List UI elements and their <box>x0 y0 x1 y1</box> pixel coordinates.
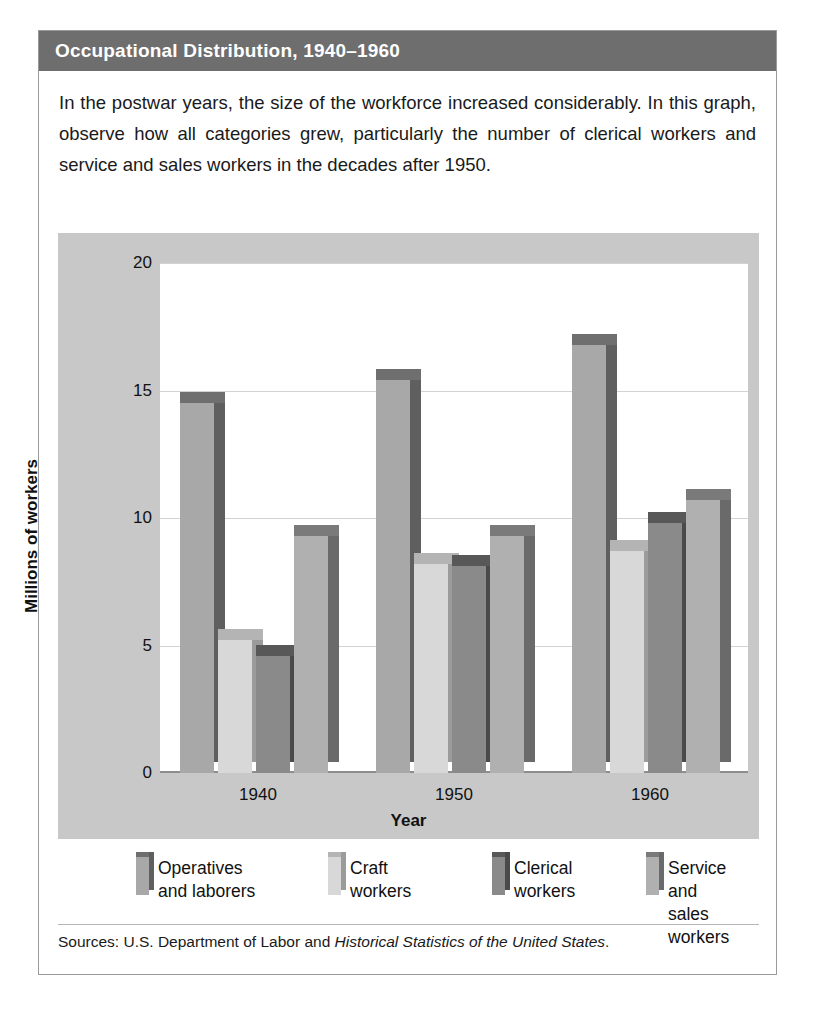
bar-top <box>180 392 214 403</box>
legend-swatch-icon <box>646 857 659 895</box>
legend-item-2: Craft workers <box>328 857 411 903</box>
bar-face <box>376 380 410 773</box>
bar-top <box>686 489 720 500</box>
bar-top <box>294 525 328 536</box>
bar-corner <box>720 489 731 500</box>
x-tick-label: 1960 <box>631 785 669 805</box>
bar-face <box>490 536 524 773</box>
y-tick-label: 15 <box>100 381 152 401</box>
swatch-face <box>492 857 505 895</box>
swatch-face <box>328 857 341 895</box>
swatch-side <box>341 852 346 890</box>
x-tick-label: 1940 <box>239 785 277 805</box>
bar-face <box>294 536 328 773</box>
bar-top <box>452 555 486 566</box>
bar-face <box>648 523 682 773</box>
figure-title: Occupational Distribution, 1940–1960 <box>55 40 400 62</box>
x-axis-title: Year <box>58 811 759 831</box>
bar-face <box>572 345 606 773</box>
bar-face <box>610 551 644 773</box>
bar-corner <box>252 629 263 640</box>
bar-top <box>572 334 606 345</box>
swatch-side <box>505 852 510 890</box>
bar-1960-series-3 <box>648 523 682 773</box>
y-tick-label: 20 <box>100 253 152 273</box>
source-title: Historical Statistics of the United Stat… <box>335 933 606 950</box>
legend-item-3: Clerical workers <box>492 857 575 903</box>
bar-1940-series-4 <box>294 536 328 773</box>
bar-1950-series-1 <box>376 380 410 773</box>
figure-box: Occupational Distribution, 1940–1960 In … <box>38 30 777 975</box>
swatch-top <box>328 852 341 857</box>
swatch-side <box>659 852 664 890</box>
bar-1950-series-4 <box>490 536 524 773</box>
legend-label: Operatives and laborers <box>158 857 255 903</box>
bar-face <box>452 566 486 773</box>
y-tick-label: 5 <box>100 636 152 656</box>
legend-swatch-icon <box>136 857 149 895</box>
legend-swatch-icon <box>328 857 341 895</box>
source-prefix: Sources: U.S. Department of Labor and <box>58 933 335 950</box>
bar-top <box>610 540 644 551</box>
bar-top <box>256 645 290 656</box>
bar-corner <box>214 392 225 403</box>
x-tick-label: 1950 <box>435 785 473 805</box>
y-axis-title: Millions of workers <box>22 421 42 651</box>
bar-top <box>376 369 410 380</box>
source-suffix: . <box>605 933 609 950</box>
source-divider <box>58 924 759 925</box>
bar-corner <box>524 525 535 536</box>
bar-1950-series-2 <box>414 564 448 773</box>
bar-face <box>256 656 290 773</box>
chart-legend: Operatives and laborersCraft workersCler… <box>58 847 759 919</box>
figure-header: Occupational Distribution, 1940–1960 <box>39 31 776 71</box>
bar-side <box>328 525 339 762</box>
legend-label: Clerical workers <box>514 857 575 903</box>
bar-top <box>648 512 682 523</box>
plot-area <box>160 263 748 773</box>
legend-item-1: Operatives and laborers <box>136 857 255 903</box>
bar-face <box>414 564 448 773</box>
bar-1950-series-3 <box>452 566 486 773</box>
gridline <box>160 263 748 264</box>
bar-1960-series-4 <box>686 500 720 773</box>
swatch-top <box>136 852 149 857</box>
bar-side <box>524 525 535 762</box>
bar-face <box>180 403 214 773</box>
chart-panel: Millions of workers 05101520 19401950196… <box>58 233 759 839</box>
bar-side <box>720 489 731 762</box>
swatch-side <box>149 852 154 890</box>
swatch-top <box>646 852 659 857</box>
swatch-face <box>136 857 149 895</box>
bar-1940-series-1 <box>180 403 214 773</box>
gridline <box>160 391 748 392</box>
legend-swatch-icon <box>492 857 505 895</box>
bar-corner <box>606 334 617 345</box>
bar-1960-series-1 <box>572 345 606 773</box>
swatch-face <box>646 857 659 895</box>
bar-corner <box>328 525 339 536</box>
legend-label: Craft workers <box>350 857 411 903</box>
bar-face <box>218 640 252 773</box>
bar-corner <box>410 369 421 380</box>
y-tick-label: 0 <box>100 763 152 783</box>
source-note: Sources: U.S. Department of Labor and Hi… <box>58 933 759 951</box>
bar-top <box>490 525 524 536</box>
y-tick-label: 10 <box>100 508 152 528</box>
bar-top <box>218 629 252 640</box>
figure-description: In the postwar years, the size of the wo… <box>39 71 776 188</box>
bar-1960-series-2 <box>610 551 644 773</box>
bar-face <box>686 500 720 773</box>
swatch-top <box>492 852 505 857</box>
bar-top <box>414 553 448 564</box>
bar-1940-series-3 <box>256 656 290 773</box>
bar-1940-series-2 <box>218 640 252 773</box>
